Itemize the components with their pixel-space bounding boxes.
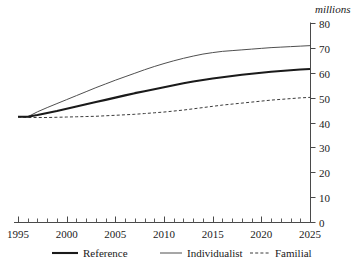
legend-label-reference: Reference: [83, 247, 128, 259]
chart-container: millions01020304050607080199520002005201…: [0, 0, 355, 273]
unit-label: millions: [315, 3, 350, 15]
x-axis-labels: 1995200020052010201520202025: [7, 228, 322, 240]
y-tick-label: 0: [319, 217, 325, 229]
y-tick-label: 60: [319, 68, 331, 80]
x-tick-label: 2010: [153, 228, 176, 240]
x-tick-label: 2025: [299, 228, 322, 240]
line-chart: millions01020304050607080199520002005201…: [0, 0, 355, 273]
y-tick-label: 40: [319, 118, 331, 130]
x-tick-label: 1995: [7, 228, 30, 240]
y-tick-label: 30: [319, 142, 331, 154]
y-tick-label: 70: [319, 43, 331, 55]
x-tick-label: 2015: [202, 228, 225, 240]
legend-label-familial: Familial: [275, 247, 312, 259]
y-tick-label: 50: [319, 93, 331, 105]
y-tick-label: 80: [319, 18, 331, 30]
legend-label-individualist: Individualist: [187, 247, 243, 259]
y-axis-ticks: 01020304050607080: [311, 18, 331, 229]
x-tick-label: 2020: [250, 228, 273, 240]
series-line-familial: [18, 97, 310, 117]
x-tick-label: 2005: [104, 228, 127, 240]
series-group: [18, 46, 310, 118]
chart-legend: ReferenceIndividualistFamilial: [52, 247, 312, 259]
x-axis-minor-ticks: [19, 217, 311, 223]
y-tick-label: 10: [319, 192, 331, 204]
series-line-individualist: [18, 46, 310, 117]
y-tick-label: 20: [319, 167, 331, 179]
x-tick-label: 2000: [56, 228, 79, 240]
series-line-reference: [18, 69, 310, 117]
